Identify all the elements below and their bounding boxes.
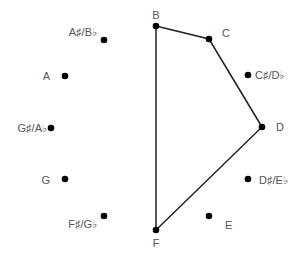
note-dot-a bbox=[62, 73, 69, 80]
note-dot-e bbox=[206, 213, 213, 220]
note-dot-d bbox=[259, 124, 266, 131]
note-label-g: G bbox=[41, 174, 50, 186]
note-dot-c bbox=[206, 36, 213, 43]
pitch-class-diagram: BCC♯/D♭DD♯/E♭EFF♯/G♭GG♯/A♭AA♯/B♭ bbox=[0, 0, 301, 261]
note-label-fs: F♯/G♭ bbox=[68, 218, 97, 230]
note-label-f: F bbox=[153, 237, 160, 249]
chord-polygon-shape bbox=[156, 26, 262, 230]
note-label-e: E bbox=[225, 219, 232, 231]
note-label-c: C bbox=[222, 27, 230, 39]
note-label-b: B bbox=[152, 9, 159, 21]
note-dot-fs bbox=[101, 213, 108, 220]
note-dot-as bbox=[101, 37, 108, 44]
note-labels: BCC♯/D♭DD♯/E♭EFF♯/G♭GG♯/A♭AA♯/B♭ bbox=[18, 9, 288, 249]
note-dot-gs bbox=[48, 125, 55, 132]
note-dot-ds bbox=[245, 176, 252, 183]
note-label-d: D bbox=[276, 121, 284, 133]
note-label-as: A♯/B♭ bbox=[69, 26, 97, 38]
note-dot-b bbox=[153, 23, 160, 30]
note-label-cs: C♯/D♭ bbox=[255, 69, 284, 81]
note-dot-cs bbox=[245, 72, 252, 79]
note-label-a: A bbox=[43, 70, 51, 82]
note-label-ds: D♯/E♭ bbox=[259, 174, 288, 186]
chord-polygon bbox=[156, 26, 262, 230]
note-dot-g bbox=[62, 176, 69, 183]
note-label-gs: G♯/A♭ bbox=[18, 122, 47, 134]
note-dot-f bbox=[153, 227, 160, 234]
